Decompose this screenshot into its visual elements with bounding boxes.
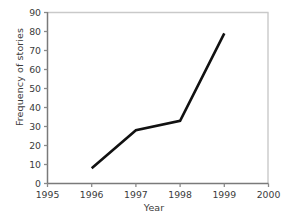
x-axis-ticks: 199519961997199819992000	[36, 184, 281, 200]
plot-axes	[47, 12, 269, 184]
x-axis-title: Year	[40, 202, 268, 213]
x-tick-label: 1995	[36, 189, 60, 200]
y-tick-label: 90	[29, 7, 41, 18]
x-tick-label: 2000	[257, 189, 281, 200]
y-tick-label: 60	[29, 64, 41, 75]
plot-frame	[48, 13, 269, 184]
y-tick-label: 80	[29, 26, 41, 37]
line-chart: 0102030405060708090 19951996199719981999…	[0, 0, 287, 219]
y-tick-label: 40	[29, 102, 41, 113]
x-tick-label: 1999	[212, 189, 236, 200]
y-tick-label: 70	[29, 45, 41, 56]
y-axis-title: Frequency of stories	[14, 0, 28, 172]
x-tick-label: 1998	[168, 189, 192, 200]
y-tick-label: 50	[29, 83, 41, 94]
y-tick-label: 10	[29, 159, 41, 170]
y-tick-label: 20	[29, 140, 41, 151]
y-tick-label: 30	[29, 121, 41, 132]
y-tick-label: 0	[35, 178, 41, 189]
x-tick-label: 1996	[80, 189, 104, 200]
chart-plot-area: 0102030405060708090 19951996199719981999…	[0, 0, 287, 219]
data-series-line	[92, 33, 225, 168]
x-tick-label: 1997	[124, 189, 148, 200]
y-axis-ticks: 0102030405060708090	[29, 7, 47, 189]
